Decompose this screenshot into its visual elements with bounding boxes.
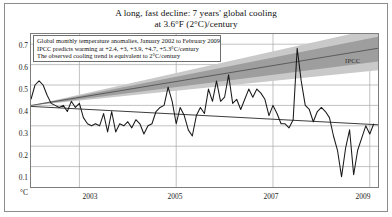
y-axis-labels: 0.7 0.6 0.5 0.4 0.3 0.2 0.1 °C [0,0,28,217]
legend-line-3: The observed cooling trend is equivalent… [37,52,218,60]
y-tick-4: 0.3 [2,130,28,138]
legend-line-2: IPCC predicts warming at +2.4, +3, +3.9,… [37,45,218,53]
x-tick-0: 2003 [70,193,110,201]
y-axis-unit-label: °C [2,189,28,197]
y-tick-6: 0.1 [2,174,28,182]
figure-container: A long, fast decline: 7 years' global co… [0,0,392,217]
chart-title-line-1: A long, fast decline: 7 years' global co… [0,8,392,19]
y-tick-0: 0.7 [2,42,28,50]
x-tick-1: 2005 [155,193,195,201]
y-tick-5: 0.2 [2,152,28,160]
y-tick-3: 0.4 [2,108,28,116]
chart-title-line-2: at 3.6°F (2°C)/century [0,19,392,30]
ipcc-annotation-label: IPCC [345,57,360,64]
x-tick-2: 2007 [251,193,291,201]
y-tick-2: 0.5 [2,86,28,94]
legend-line-1: Global monthly temperature anomalies, Ja… [37,37,218,45]
y-tick-1: 0.6 [2,64,28,72]
legend-box: Global monthly temperature anomalies, Ja… [33,35,221,62]
chart-title: A long, fast decline: 7 years' global co… [0,8,392,30]
x-tick-3: 2009 [343,193,383,201]
